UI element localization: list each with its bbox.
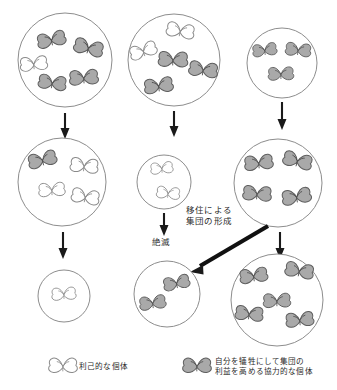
- deme-c1-r1: [18, 13, 112, 107]
- deme-c1-r2: [18, 138, 106, 226]
- deme-c1-r3: [38, 270, 90, 322]
- legend-selfish-label: 利己的な個体: [79, 362, 128, 372]
- legend-selfish-icon: [49, 358, 78, 372]
- deme-c3-r3: [231, 254, 323, 346]
- deme-c3-r2: [234, 139, 322, 227]
- diagram-svg: [0, 0, 337, 390]
- figure-canvas: 移住による 集団の形成 絶滅 利己的な個体 自分を犠牲にして集団の 利益を高める…: [0, 0, 337, 390]
- deme-c2-r3: [134, 261, 200, 327]
- legend-cooperative-icon: [183, 358, 212, 372]
- arrow-c2-r2-to-extinction: [160, 213, 169, 236]
- arrow-c1-r1-to-r2: [61, 113, 70, 139]
- migration-annotation: 移住による 集団の形成: [186, 205, 232, 227]
- deme-c2-r1: [128, 14, 220, 106]
- arrow-c1-r2-to-r3: [59, 232, 68, 259]
- deme-c2-r2: [137, 155, 191, 209]
- legend-cooperative-label: 自分を犠牲にして集団の 利益を高める協力的な個体: [215, 357, 313, 377]
- deme-c3-r1: [247, 28, 317, 98]
- arrow-c2-r1-to-r2: [170, 111, 179, 137]
- arrow-c3-r1-to-r2: [278, 102, 287, 130]
- extinction-annotation: 絶滅: [152, 237, 170, 248]
